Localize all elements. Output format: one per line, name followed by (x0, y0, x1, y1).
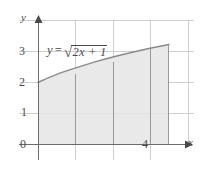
origin-tick-label-0: 0 (20, 138, 26, 150)
equation-lhs: y (47, 44, 53, 57)
y-axis-label: y (21, 12, 26, 23)
y-tick-label-1: 1 (21, 106, 27, 118)
equation-annotation: y = √ 2x + 1 (47, 44, 107, 58)
equation-operator: = (55, 44, 62, 57)
y-tick-label-3: 3 (19, 45, 25, 57)
graph-figure: 3 2 1 0 4 y x y = √ 2x + 1 (0, 0, 204, 170)
x-tick-label-4: 4 (142, 138, 148, 150)
equation-radicand: 2x + 1 (71, 45, 107, 59)
shaded-area-lower-band (38, 114, 169, 145)
x-axis-label: x (188, 137, 193, 148)
y-tick-label-2: 2 (19, 76, 25, 88)
plot-canvas (0, 0, 204, 170)
y-axis-arrowhead (35, 15, 43, 23)
